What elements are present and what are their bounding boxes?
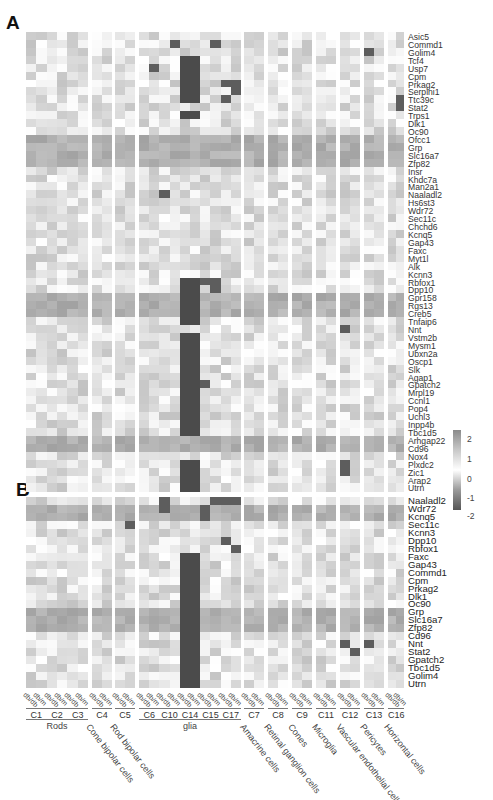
heatmap-cell [36,483,47,491]
cell-type-label: Rods [26,721,88,731]
heatmap-cell [47,483,58,491]
color-scale-tick: -2 [467,511,475,521]
heatmap-cell [115,680,125,688]
heatmap-cell [254,483,264,491]
heatmap-cell [340,680,350,688]
heatmap-cell [340,483,350,491]
heatmap-cell [350,483,360,491]
cell-type-label: Horizontal cells [382,722,427,776]
heatmap-cell [316,483,326,491]
heatmap-cell [78,483,89,491]
heatmap-cell [139,483,150,491]
cluster-underline [388,708,404,709]
heatmap-cell [364,680,374,688]
heatmap-cell [396,483,404,491]
group-underline [26,719,88,720]
cluster-label-c13: C13 [364,710,384,720]
cluster-label-c4: C4 [92,710,112,720]
heatmap-cell [221,680,232,688]
cluster-label-c9: C9 [292,710,312,720]
cluster-underline [268,708,288,709]
cluster-underline [139,708,159,709]
heatmap-cell [180,483,191,491]
group-underline [139,719,241,720]
heatmap-cell [278,483,288,491]
color-scale-tick: 2 [467,434,472,444]
heatmap-cell [364,483,374,491]
color-scale-bar [453,430,461,510]
heatmap-cell [292,483,302,491]
cluster-underline [316,708,336,709]
heatmap-cell [149,680,160,688]
cluster-label-c5: C5 [115,710,135,720]
panel-a-label: A [6,12,20,34]
heatmap-cell [254,680,264,688]
heatmap-cell [231,483,242,491]
heatmap-cell [302,483,312,491]
heatmap-cell [170,680,181,688]
heatmap-cell [268,483,278,491]
cell-type-label: Cones [286,722,310,749]
heatmap-cell [125,680,135,688]
heatmap-cell [57,483,68,491]
heatmap-cell [67,680,78,688]
heatmap-cell [67,483,78,491]
heatmap-cell [221,483,232,491]
cluster-underline [47,708,68,709]
heatmap-cell [244,483,254,491]
heatmap-cell [231,680,242,688]
cluster-underline [364,708,384,709]
heatmap-cell [36,680,47,688]
heatmap-cell [326,680,336,688]
heatmap-cell [374,680,384,688]
heatmap-cell [47,680,58,688]
cluster-underline [180,708,200,709]
heatmap-cell [180,680,191,688]
heatmap-cell [278,680,288,688]
cluster-label-c16: C16 [388,710,404,720]
cluster-underline [200,708,220,709]
heatmap-cell [268,680,278,688]
cluster-label-c8: C8 [268,710,288,720]
heatmap-cell [170,483,181,491]
heatmap-cell [92,483,102,491]
heatmap-cell [92,680,102,688]
heatmap-cell [200,680,211,688]
cluster-underline [26,708,47,709]
heatmap-cell [26,483,37,491]
heatmap-cell [302,680,312,688]
heatmap-cell [190,483,201,491]
cluster-underline [292,708,312,709]
gene-label: Utrn [408,680,426,688]
heatmap-cell [326,483,336,491]
heatmap-cell [159,483,170,491]
heatmap-cell [210,680,221,688]
cluster-label-c7: C7 [244,710,264,720]
cluster-underline [221,708,241,709]
heatmap-cell [159,680,170,688]
heatmap-cell [374,483,384,491]
cluster-label-c12: C12 [340,710,360,720]
color-scale-tick: 0 [467,474,472,484]
cluster-underline [159,708,179,709]
cluster-underline [67,708,88,709]
heatmap-cell [210,483,221,491]
color-scale-tick: 1 [467,454,472,464]
heatmap-cell [125,483,135,491]
heatmap-cell [139,680,150,688]
heatmap-cell [102,483,112,491]
heatmap-cell [115,483,125,491]
heatmap-cell [149,483,160,491]
heatmap-cell [244,680,254,688]
cluster-underline [92,708,112,709]
cluster-label-c11: C11 [316,710,336,720]
cluster-underline [244,708,264,709]
heatmap-cell [78,680,89,688]
heatmap-cell [292,680,302,688]
heatmap-cell [316,680,326,688]
cluster-underline [115,708,135,709]
heatmap-cell [26,680,37,688]
cell-type-label: glia [139,721,241,731]
heatmap-cell [396,680,404,688]
gene-label: Utrn [408,484,424,492]
